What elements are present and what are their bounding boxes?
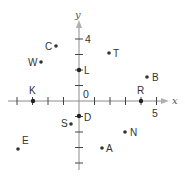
point-label-D: D (84, 112, 91, 123)
point-label-A: A (106, 143, 113, 154)
point-label-R: R (137, 85, 144, 96)
point-label-E: E (22, 135, 29, 146)
point-A: A (100, 143, 113, 154)
x-tick-label-5: 5 (152, 107, 158, 119)
point-label-C: C (45, 41, 52, 52)
point-label-T: T (113, 48, 119, 59)
point-label-W: W (28, 57, 38, 68)
point-N: N (123, 127, 137, 138)
point-R: R (137, 85, 144, 103)
x-axis: x 5 (8, 95, 178, 119)
point-label-S: S (61, 118, 68, 129)
coordinate-plane: x 5 y 4 0 C W T (0, 0, 185, 177)
point-T: T (107, 48, 119, 59)
point-B: B (145, 72, 159, 83)
x-axis-arrow-icon (161, 98, 169, 104)
point-label-B: B (152, 72, 159, 83)
point-E: E (16, 135, 29, 151)
point-S: S (61, 118, 73, 129)
point-K: K (29, 85, 36, 103)
origin-label: 0 (83, 88, 89, 100)
point-label-L: L (84, 65, 90, 76)
point-label-K: K (29, 85, 36, 96)
point-W: W (28, 57, 43, 68)
point-label-N: N (130, 127, 137, 138)
y-axis-arrow-icon (76, 20, 82, 28)
x-axis-label: x (172, 95, 178, 106)
y-tick-label-4: 4 (85, 33, 91, 45)
y-axis: y 4 0 (74, 9, 91, 170)
y-axis-label: y (74, 9, 81, 20)
point-C: C (45, 41, 58, 52)
